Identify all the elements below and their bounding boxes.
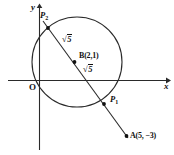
radius-value-upper: 5 (67, 34, 72, 44)
x-axis-label: x (164, 82, 169, 91)
y-axis (37, 4, 43, 151)
point-label-p1-subscript: 1 (115, 99, 118, 105)
point-label-p2-subscript: 2 (45, 15, 48, 21)
point-dot-b (73, 60, 77, 64)
point-label-p2: P2 (40, 11, 48, 20)
point-dot-p2 (46, 26, 50, 30)
geometry-figure: y x O P2 P1 B(2,1) A(5, −3) √5 √5 (0, 0, 174, 155)
radius-label-upper: √5 (62, 34, 72, 44)
origin-label: O (29, 83, 36, 92)
circle-outline (32, 17, 122, 107)
point-label-p1: P1 (110, 95, 118, 104)
y-axis-label: y (31, 3, 35, 12)
point-dot-a (125, 134, 129, 138)
point-dot-p1 (102, 102, 106, 106)
y-axis-arrow-icon (37, 4, 43, 9)
radius-label-lower: √5 (83, 64, 93, 74)
circle-center-label: B(2,1) (79, 52, 98, 60)
radius-value-lower: 5 (88, 64, 93, 74)
point-label-a: A(5, −3) (130, 132, 156, 140)
